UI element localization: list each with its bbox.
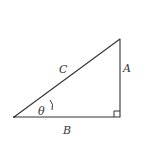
left-vertex-dot xyxy=(13,116,15,118)
label-hypotenuse: C xyxy=(59,63,68,76)
triangle-outline xyxy=(14,39,120,117)
label-angle-theta: θ xyxy=(38,105,45,118)
angle-arc xyxy=(50,100,53,110)
label-opposite: A xyxy=(122,62,131,75)
label-adjacent: B xyxy=(62,124,71,137)
right-angle-marker xyxy=(114,111,120,117)
right-triangle-diagram: C A B θ xyxy=(0,0,146,142)
